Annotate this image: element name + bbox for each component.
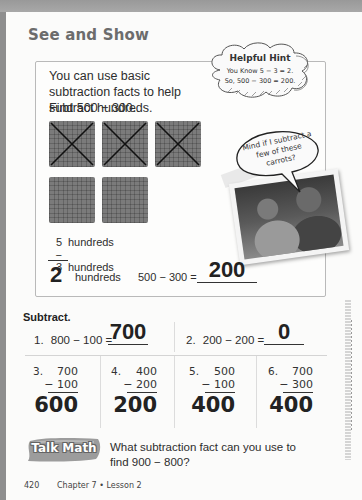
talk-math-badge: Talk Math [26, 435, 102, 463]
problem-5-top: 500 [195, 365, 235, 378]
hundred-block-crossed [155, 121, 201, 167]
problem-2-answer[interactable]: 0 [264, 320, 304, 345]
problem-1: 1. 800 − 100 = [34, 334, 112, 346]
worked-row-1: 5hundreds [48, 236, 114, 248]
worked-row-1-word: hundreds [68, 236, 114, 248]
cross-out-icon [102, 121, 148, 167]
divider [256, 356, 257, 428]
problem-1-expression: 800 − 100 = [51, 334, 112, 346]
hint-line-1: You Know 5 − 3 = 2. [206, 67, 314, 75]
cross-out-icon [155, 121, 201, 167]
worked-answer: 200 [197, 258, 257, 283]
problem-1-answer[interactable]: 700 [108, 320, 148, 345]
page-top-border [0, 0, 362, 12]
talk-math-label: Talk Math [26, 441, 102, 455]
divider [100, 356, 101, 428]
exercise-instruction: Subtract. [23, 311, 71, 323]
problem-4-bottom: − 200 [117, 378, 157, 391]
divider [174, 356, 175, 428]
worked-result-digit: 2 [50, 262, 62, 288]
subtraction-rule [48, 260, 68, 261]
problem-4-answer[interactable]: 200 [107, 393, 157, 417]
margin-dotted-line [351, 320, 352, 430]
hundred-block-crossed [102, 121, 148, 167]
problem-2-number: 2. [186, 334, 196, 346]
talk-math-question: What subtraction fact can you use to fin… [110, 440, 310, 470]
hundred-block-crossed [49, 121, 95, 167]
worked-result-word: hundreds [75, 271, 121, 283]
speech-bubble: Mind if I subtract a few of these carrot… [232, 130, 322, 200]
problem-3-answer[interactable]: 600 [28, 393, 78, 417]
row-divider [25, 355, 327, 356]
hint-title: Helpful Hint [206, 53, 314, 63]
cross-out-icon [49, 121, 95, 167]
find-prompt: Find 500 − 300. [49, 101, 136, 115]
problem-2-expression: 200 − 200 = [203, 334, 264, 346]
hundred-block [49, 177, 95, 223]
problem-3-bottom: − 100 [38, 378, 78, 391]
problem-6-top: 700 [273, 365, 313, 378]
chapter-lesson: Chapter 7 • Lesson 2 [57, 481, 142, 490]
problem-3-top: 700 [38, 365, 78, 378]
page-number: 420 [24, 481, 39, 490]
worked-equation: 500 − 300 = [138, 271, 197, 283]
problem-4-top: 400 [117, 365, 157, 378]
problem-6-bottom: − 300 [273, 378, 313, 391]
hundred-block [102, 177, 148, 223]
helpful-hint-cloud: Helpful Hint You Know 5 − 3 = 2. So, 500… [206, 40, 314, 102]
problem-2: 2. 200 − 200 = [186, 334, 264, 346]
problem-5-bottom: − 100 [195, 378, 235, 391]
worked-row-1-number: 5 [48, 236, 62, 248]
divider [174, 322, 175, 352]
problem-6-answer[interactable]: 400 [263, 393, 313, 417]
section-title: See and Show [28, 26, 149, 44]
problem-1-number: 1. [34, 334, 44, 346]
problem-5-answer[interactable]: 400 [185, 393, 235, 417]
hint-line-2: So, 500 − 300 = 200. [206, 77, 314, 85]
